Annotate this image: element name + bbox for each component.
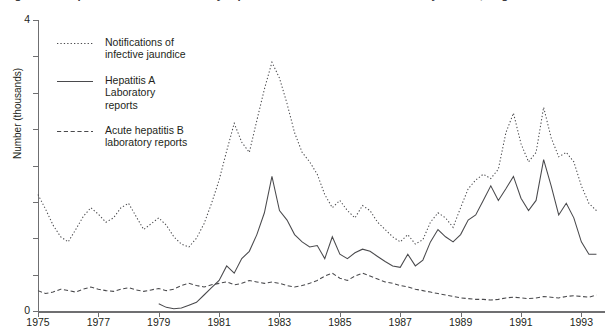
legend-label-line: Acute hepatitis B — [105, 124, 287, 136]
x-axis-tick-label: 1991 — [496, 316, 546, 328]
x-axis-tick-label: 1979 — [134, 316, 184, 328]
x-axis-tick-label: 1981 — [194, 316, 244, 328]
legend-swatch-solid — [57, 80, 93, 82]
legend-swatch-dashed — [57, 130, 93, 132]
chart-figure: Figure 2.4 Hepatitis A and B: laboratory… — [0, 0, 609, 328]
x-axis-tick-label: 1985 — [315, 316, 365, 328]
y-axis-title: Number (thousands) — [12, 39, 23, 189]
y-axis-tick-label: 0 — [6, 304, 30, 316]
series-line-solid — [159, 160, 597, 309]
legend-label: Acute hepatitis Blaboratory reports — [105, 124, 287, 149]
legend-swatch-dotted — [57, 42, 93, 44]
x-axis-tick-label: 1983 — [254, 316, 304, 328]
legend-label-line: Hepatitis A — [105, 74, 287, 86]
legend-label-line: laboratory reports — [105, 136, 287, 148]
x-axis-tick-label: 1975 — [13, 316, 63, 328]
legend-label-line: reports — [105, 99, 287, 111]
chart-legend: Notifications ofinfective jaundiceHepati… — [57, 36, 287, 162]
x-axis-tick-label: 1989 — [436, 316, 486, 328]
legend-item-notifications-infective-jaundice: Notifications ofinfective jaundice — [57, 36, 287, 61]
x-axis-tick-label: 1987 — [375, 316, 425, 328]
legend-label: Notifications ofinfective jaundice — [105, 36, 287, 61]
figure-title-clipped: Figure 2.4 Hepatitis A and B: laboratory… — [0, 0, 609, 7]
legend-label: Hepatitis ALaboratoryreports — [105, 74, 287, 111]
y-axis-tick-label: 4 — [6, 13, 30, 25]
figure-title-text: Figure 2.4 Hepatitis A and B: laboratory… — [4, 0, 593, 1]
legend-label-line: Notifications of — [105, 36, 287, 48]
series-line-dashed — [38, 273, 596, 300]
legend-item-hepatitis-a-laboratory-reports: Hepatitis ALaboratoryreports — [57, 74, 287, 111]
legend-item-acute-hepatitis-b-laboratory-reports: Acute hepatitis Blaboratory reports — [57, 124, 287, 149]
x-axis-tick-label: 1993 — [556, 316, 606, 328]
x-axis-line — [38, 311, 605, 313]
legend-label-line: infective jaundice — [105, 48, 287, 60]
x-axis-tick-label: 1977 — [73, 316, 123, 328]
legend-label-line: Laboratory — [105, 86, 287, 98]
